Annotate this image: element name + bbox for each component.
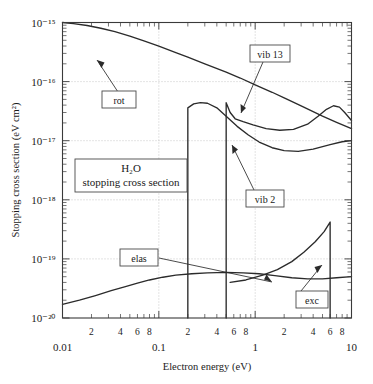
- title-box-line1: H₂O: [121, 162, 141, 174]
- y-tick-label: 10⁻¹⁵: [31, 17, 55, 29]
- x-tick-label-minor: 6: [328, 327, 333, 337]
- y-tick-label: 10⁻¹⁹: [31, 253, 55, 265]
- y-tick-label: 10⁻²⁰: [31, 312, 56, 324]
- exc-label: exc: [305, 295, 319, 306]
- x-tick-label-minor: 8: [243, 327, 248, 337]
- x-tick-label-minor: 2: [89, 327, 94, 337]
- x-tick-label-minor: 4: [311, 327, 316, 337]
- x-tick-label-minor: 4: [118, 327, 123, 337]
- x-tick-label-minor: 4: [214, 327, 219, 337]
- x-tick-label-minor: 2: [185, 327, 190, 337]
- vib13-label: vib 13: [257, 49, 282, 60]
- y-axis-label: Stopping cross section (eV cm²): [10, 102, 22, 237]
- y-tick-label: 10⁻¹⁶: [31, 76, 55, 88]
- x-tick-label-minor: 6: [135, 327, 140, 337]
- elas-label: elas: [131, 253, 147, 264]
- x-tick-label-major: 10: [346, 341, 358, 353]
- vib2-label: vib 2: [255, 194, 275, 205]
- x-tick-label-major: 0.01: [53, 341, 72, 353]
- y-tick-label: 10⁻¹⁸: [31, 194, 55, 206]
- x-tick-label-minor: 6: [231, 327, 236, 337]
- x-tick-label-minor: 8: [147, 327, 152, 337]
- y-tick-label: 10⁻¹⁷: [31, 135, 55, 147]
- x-tick-label-minor: 2: [282, 327, 287, 337]
- figure-root: 10⁻²⁰10⁻¹⁹10⁻¹⁸10⁻¹⁷10⁻¹⁶10⁻¹⁵ 0.010.111…: [0, 0, 373, 384]
- rot-label: rot: [113, 95, 124, 106]
- stopping-cross-section-chart: 10⁻²⁰10⁻¹⁹10⁻¹⁸10⁻¹⁷10⁻¹⁶10⁻¹⁵ 0.010.111…: [0, 0, 373, 384]
- x-tick-label-major: 1: [252, 341, 258, 353]
- title-box-line2: stopping cross section: [82, 176, 180, 188]
- x-axis-label: Electron energy (eV): [163, 361, 252, 373]
- x-tick-label-major: 0.1: [152, 341, 166, 353]
- x-tick-label-minor: 8: [340, 327, 345, 337]
- title-box: H₂O stopping cross section: [75, 159, 187, 192]
